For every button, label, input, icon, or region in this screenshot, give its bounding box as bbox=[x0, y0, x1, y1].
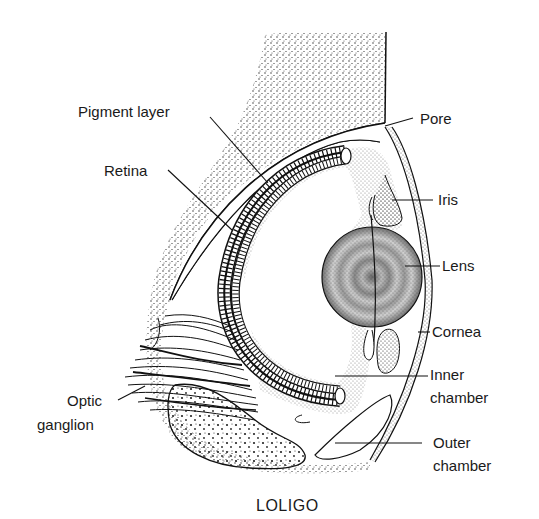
label-outer-chamber-line1: Outer bbox=[433, 434, 471, 452]
label-lens: Lens bbox=[442, 257, 475, 275]
leader-pore bbox=[385, 118, 413, 126]
iris-lower bbox=[377, 329, 400, 373]
label-retina: Retina bbox=[104, 162, 147, 180]
label-pigment-layer: Pigment layer bbox=[78, 103, 170, 121]
figure-caption: LOLIGO bbox=[256, 497, 319, 515]
label-inner-chamber-line2: chamber bbox=[430, 389, 488, 407]
label-iris: Iris bbox=[438, 191, 458, 209]
label-pore: Pore bbox=[420, 110, 452, 128]
label-optic-ganglion-line1: Optic bbox=[67, 392, 102, 410]
head-edge bbox=[385, 32, 386, 123]
loligo-eye-diagram: Pigment layer Retina Pore Iris Lens Corn… bbox=[0, 0, 539, 519]
label-optic-ganglion-line2: ganglion bbox=[37, 416, 94, 434]
label-outer-chamber-line2: chamber bbox=[433, 457, 491, 475]
label-cornea: Cornea bbox=[432, 323, 481, 341]
leader-optic-ganglion bbox=[118, 386, 145, 400]
label-inner-chamber-line1: Inner bbox=[430, 366, 464, 384]
